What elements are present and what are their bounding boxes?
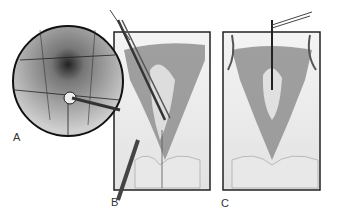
panel-label-b: B xyxy=(111,196,118,208)
panel-a-magnified-view xyxy=(13,26,123,136)
panel-label-a: A xyxy=(13,131,20,143)
panel-c xyxy=(223,12,320,190)
panel-b xyxy=(110,10,210,200)
medical-illustration xyxy=(0,0,337,217)
panel-label-c: C xyxy=(221,197,229,209)
